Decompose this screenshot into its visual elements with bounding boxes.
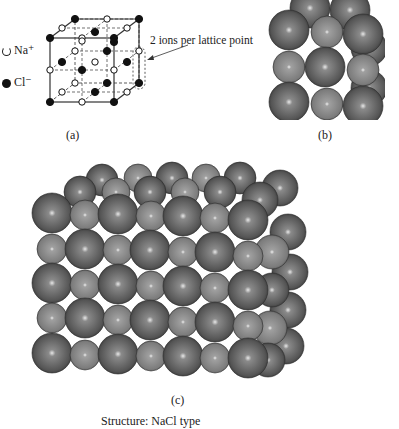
lattice-point-annotation: 2 ions per lattice point bbox=[150, 34, 253, 46]
caption-c: (c) bbox=[171, 393, 184, 408]
nacl-unit-cell-diagram bbox=[40, 8, 200, 128]
legend-cl-label: Cl⁻ bbox=[14, 75, 32, 89]
open-circle-icon bbox=[2, 47, 11, 56]
legend-na-label: Na⁺ bbox=[14, 43, 34, 57]
caption-a: (a) bbox=[66, 128, 79, 143]
legend-na: Na⁺ bbox=[2, 43, 34, 58]
caption-b: (b) bbox=[318, 128, 332, 143]
filled-circle-icon bbox=[2, 79, 11, 88]
legend-cl: Cl⁻ bbox=[2, 75, 32, 90]
structure-type-label: Structure: NaCl type bbox=[101, 414, 200, 429]
nacl-space-filling-large bbox=[30, 160, 310, 380]
front-face-grid bbox=[32, 193, 268, 378]
nacl-space-filling-small bbox=[265, 0, 385, 120]
